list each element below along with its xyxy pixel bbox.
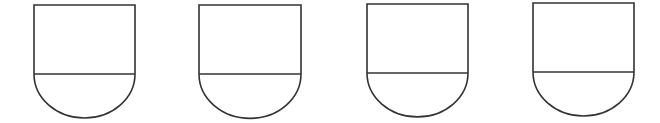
shield-outline <box>367 4 468 117</box>
diagram-canvas <box>0 0 660 123</box>
shield-shape <box>367 4 468 117</box>
shield-outline <box>199 5 301 118</box>
shield-outline <box>34 5 135 118</box>
shield-shape <box>533 3 634 116</box>
shield-shape <box>199 5 301 118</box>
shield-outline <box>533 3 634 116</box>
shield-shape <box>34 5 135 118</box>
